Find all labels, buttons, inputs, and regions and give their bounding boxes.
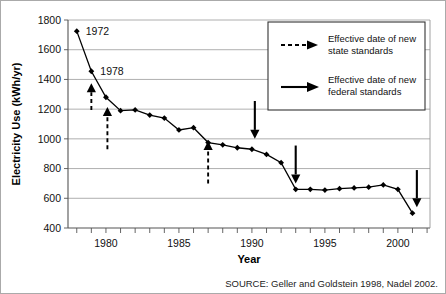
y-tick-label-600: 600	[43, 192, 61, 204]
point-annotation-1978: 1978	[100, 65, 124, 77]
x-tick-labels-group: 19801985199019952000	[94, 237, 409, 249]
y-tick-labels-group: 40060080010001200140016001800	[38, 14, 62, 234]
x-tick-label-2000: 2000	[386, 237, 410, 249]
figure-container: 40060080010001200140016001800 1980198519…	[0, 0, 446, 294]
x-axis-title: Year	[237, 253, 261, 265]
data-point-1988	[220, 142, 226, 148]
y-tick-label-1000: 1000	[38, 133, 62, 145]
x-tick-marks-group	[77, 228, 427, 233]
y-tick-label-1400: 1400	[38, 73, 62, 85]
y-tick-marks-group	[64, 20, 68, 228]
arrow-federal-3-head	[250, 130, 259, 139]
data-point-1995	[322, 187, 328, 193]
data-point-1983	[147, 112, 153, 118]
data-point-1996	[337, 186, 343, 192]
data-point-1982	[132, 107, 138, 113]
y-tick-label-1600: 1600	[38, 43, 62, 55]
x-tick-label-1990: 1990	[240, 237, 264, 249]
y-tick-label-400: 400	[43, 222, 61, 234]
legend-entry-0-line1: Effective date of new	[328, 33, 416, 44]
arrow-federal-4-head	[291, 174, 300, 183]
y-tick-label-1800: 1800	[38, 14, 62, 26]
arrow-federal-5-head	[412, 198, 421, 207]
x-tick-label-1995: 1995	[313, 237, 337, 249]
data-point-1991	[264, 152, 270, 158]
legend-entry-1-line2: federal standards	[328, 86, 402, 97]
y-tick-label-800: 800	[43, 162, 61, 174]
data-point-1979	[88, 68, 94, 74]
point-annotation-1972: 1972	[86, 25, 110, 37]
y-axis-title: Electricity Use (kWh/yr)	[10, 62, 22, 185]
data-point-1998	[366, 184, 372, 190]
data-point-1993	[293, 186, 299, 192]
data-point-1997	[351, 185, 357, 191]
data-point-1990	[249, 146, 255, 152]
electricity-use-line-chart: 40060080010001200140016001800 1980198519…	[0, 0, 446, 294]
legend-entry-0-line2: state standards	[328, 45, 393, 56]
data-point-1989	[234, 145, 240, 151]
legend: Effective date of new state standards Ef…	[268, 22, 425, 110]
data-point-1992	[278, 160, 284, 166]
legend-entry-1-line1: Effective date of new	[328, 74, 416, 85]
data-point-1999	[380, 182, 386, 188]
y-tick-label-1200: 1200	[38, 103, 62, 115]
source-note: SOURCE: Geller and Goldstein 1998, Nadel…	[225, 278, 438, 289]
arrow-state-0-head	[87, 83, 96, 92]
data-point-1978	[74, 28, 80, 34]
data-point-1994	[307, 186, 313, 192]
x-tick-label-1985: 1985	[167, 237, 191, 249]
data-point-2000	[395, 186, 401, 192]
data-point-2001	[410, 210, 416, 216]
x-tick-label-1980: 1980	[94, 237, 118, 249]
arrow-state-1-head	[103, 107, 112, 116]
